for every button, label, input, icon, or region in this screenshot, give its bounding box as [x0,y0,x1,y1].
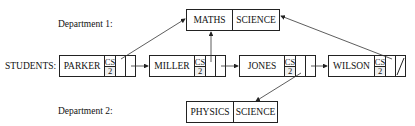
arrow-wilson-to-maths [281,16,392,59]
pointer-arrows [0,0,415,126]
arrow-jones-to-physics [256,73,301,101]
arrow-parker-to-maths [121,19,185,59]
